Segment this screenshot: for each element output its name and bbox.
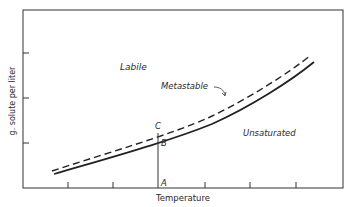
- x-axis-label: Temperature: [155, 193, 210, 203]
- plot-frame: [23, 10, 343, 188]
- solubility-curve: [54, 62, 314, 174]
- solubility-diagram: Labile Metastable Unsaturated C B A Temp…: [0, 0, 351, 207]
- point-label-a: A: [160, 178, 167, 188]
- point-label-c: C: [155, 121, 161, 131]
- region-label-unsaturated: Unsaturated: [243, 128, 296, 138]
- point-label-b: B: [161, 138, 167, 148]
- supersolubility-curve: [52, 55, 311, 171]
- y-axis-ticks: [23, 53, 29, 143]
- x-axis-ticks: [68, 182, 296, 188]
- region-label-labile: Labile: [120, 62, 147, 72]
- region-label-metastable: Metastable: [161, 81, 208, 91]
- y-axis-label: g. solute per liter: [8, 66, 17, 135]
